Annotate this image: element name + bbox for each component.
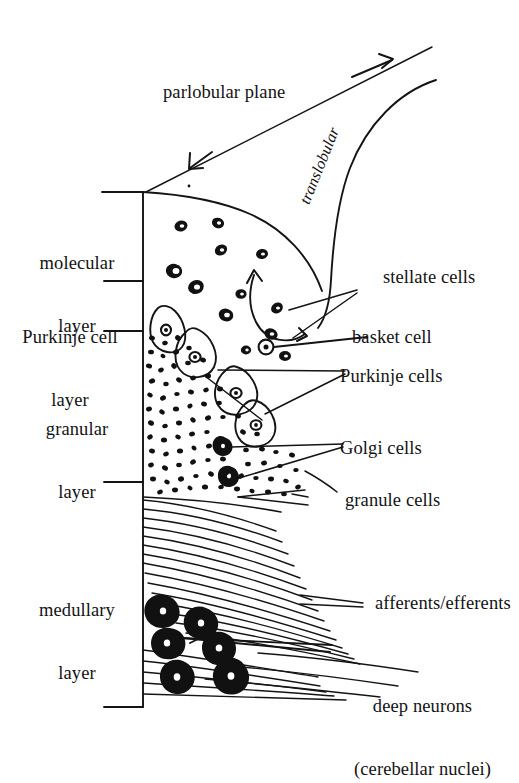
- cell-label-deep-neurons-line1: deep neurons: [330, 696, 515, 717]
- stellate-cells-group: [165, 216, 357, 361]
- layer-label-granular: granular layer: [20, 378, 134, 544]
- cell-label-golgi-cells: Golgi cells: [340, 438, 422, 459]
- layer-label-purkinje-cell-line1: Purkinje cell: [5, 327, 135, 348]
- label-parlobular-plane: parlobular plane: [163, 82, 285, 103]
- cell-label-deep-neurons-line2: (cerebellar nuclei): [330, 759, 515, 780]
- cell-label-deep-neurons: deep neurons (cerebellar nuclei): [330, 655, 515, 783]
- cell-label-purkinje-cells: Purkinje cells: [340, 366, 443, 387]
- layer-label-medullary-line2: layer: [20, 663, 134, 684]
- cell-label-afferents-efferents: afferents/efferents: [375, 593, 511, 614]
- layer-label-granular-line2: layer: [20, 482, 134, 503]
- cell-label-granule-cells: granule cells: [345, 490, 440, 511]
- golgi-cells-group: [213, 436, 343, 487]
- cell-label-basket-cell: basket cell: [352, 327, 432, 348]
- cell-label-stellate-cells: stellate cells: [383, 267, 475, 288]
- purkinje-cells-group: [150, 306, 345, 447]
- layer-label-medullary: medullary layer: [20, 559, 134, 725]
- layer-label-molecular-line1: molecular: [20, 253, 134, 274]
- layer-label-medullary-line1: medullary: [20, 600, 134, 621]
- layer-label-granular-line1: granular: [20, 419, 134, 440]
- deep-neurons-group: [144, 594, 249, 694]
- parlobular-plane-line: [146, 47, 432, 192]
